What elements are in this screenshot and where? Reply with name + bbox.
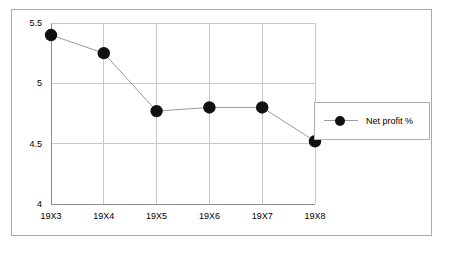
x-axis-tick-label: 19X3 bbox=[31, 211, 71, 221]
x-axis-tick-label: 19X4 bbox=[84, 211, 124, 221]
y-axis-tick-label: 5.5 bbox=[16, 18, 42, 28]
x-axis-tick-label: 19X8 bbox=[295, 211, 335, 221]
y-axis-tick-label: 4.5 bbox=[16, 139, 42, 149]
legend-item-net-profit: Net profit % bbox=[315, 103, 429, 139]
legend-marker bbox=[324, 115, 358, 127]
y-axis-tick-label: 4 bbox=[16, 199, 42, 209]
x-axis-tick-label: 19X7 bbox=[242, 211, 282, 221]
chart-legend: Net profit % bbox=[314, 102, 430, 140]
x-axis-tick-label: 19X6 bbox=[189, 211, 229, 221]
chart-frame: 5.554.54 19X319X419X519X619X719X8 Net pr… bbox=[11, 9, 432, 236]
legend-label: Net profit % bbox=[366, 116, 413, 126]
x-axis-tick-label: 19X5 bbox=[137, 211, 177, 221]
y-axis-tick-label: 5 bbox=[16, 78, 42, 88]
filled-circle-icon bbox=[335, 116, 345, 126]
